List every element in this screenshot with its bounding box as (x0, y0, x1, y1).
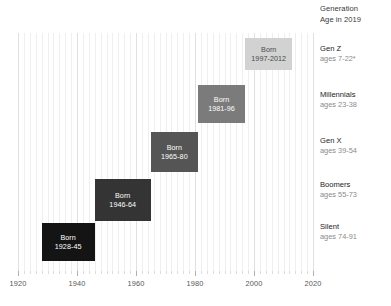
era-box-label-born: Born (214, 95, 229, 104)
axis-tick (95, 271, 96, 274)
era-box-label-born: Born (261, 45, 276, 54)
generation-row-millennials[interactable]: Millennialsages 23-38 (320, 90, 391, 110)
axis-tick (148, 271, 149, 274)
gridline-minor (230, 33, 231, 271)
x-axis-label-1980: 1980 (187, 279, 204, 288)
generation-row-boomers[interactable]: Boomersages 55-73 (320, 180, 391, 200)
x-axis-label-1940: 1940 (69, 279, 86, 288)
generation-name: Millennials (320, 90, 391, 100)
axis-tick (124, 271, 125, 274)
axis-tick (236, 271, 237, 274)
gridline-minor (236, 33, 237, 271)
gridline-minor (307, 33, 308, 271)
axis-tick (272, 271, 273, 274)
gridline-minor (112, 33, 113, 271)
axis-tick (266, 271, 267, 274)
axis-tick (207, 271, 208, 274)
axis-tick (307, 271, 308, 274)
x-axis-label-1960: 1960 (128, 279, 145, 288)
axis-tick (195, 271, 196, 276)
gridline-minor (130, 33, 131, 271)
generation-row-gen-x[interactable]: Gen Xages 39-54 (320, 136, 391, 156)
legend-header-line2: Age in 2019 (320, 15, 391, 26)
era-box-label-years: 1928-45 (55, 242, 82, 251)
axis-tick (289, 271, 290, 274)
axis-tick (36, 271, 37, 274)
generation-name: Gen X (320, 136, 391, 146)
generation-name: Boomers (320, 180, 391, 190)
axis-tick (166, 271, 167, 274)
x-axis-label-2020: 2020 (305, 279, 322, 288)
generation-row-gen-z[interactable]: Gen Zages 7-22* (320, 44, 391, 64)
axis-tick (154, 271, 155, 274)
generation-name: Silent (320, 222, 391, 232)
gridline-major (136, 33, 137, 271)
axis-tick (65, 271, 66, 274)
era-box-label-years: 1997-2012 (251, 54, 286, 63)
axis-tick (183, 271, 184, 274)
axis-tick (130, 271, 131, 274)
gridline-minor (213, 33, 214, 271)
axis-tick (225, 271, 226, 274)
axis-tick (242, 271, 243, 274)
axis-tick (77, 271, 78, 276)
axis-tick (160, 271, 161, 274)
axis-tick (177, 271, 178, 274)
axis-tick (284, 271, 285, 274)
axis-tick (89, 271, 90, 274)
gridline-minor (30, 33, 31, 271)
axis-tick (48, 271, 49, 274)
era-box-silent[interactable]: Born1928-45 (42, 223, 95, 261)
gridline-minor (295, 33, 296, 271)
axis-tick (142, 271, 143, 274)
gridline-minor (101, 33, 102, 271)
gridline-major (18, 33, 19, 271)
axis-tick (295, 271, 296, 274)
era-box-boomers[interactable]: Born1946-64 (95, 179, 151, 221)
axis-tick (101, 271, 102, 274)
axis-tick (30, 271, 31, 274)
gridline-minor (142, 33, 143, 271)
gridline-minor (95, 33, 96, 271)
generation-name: Gen Z (320, 44, 391, 54)
gridline-minor (118, 33, 119, 271)
axis-tick (59, 271, 60, 274)
era-box-gen-x[interactable]: Born1965-80 (151, 132, 198, 172)
axis-tick (136, 271, 137, 276)
gridline-minor (201, 33, 202, 271)
axis-tick (71, 271, 72, 274)
era-box-gen-z[interactable]: Born1997-2012 (245, 38, 292, 70)
gridline-minor (242, 33, 243, 271)
axis-tick (213, 271, 214, 274)
generation-ages: ages 74-91 (320, 232, 391, 242)
axis-tick (301, 271, 302, 274)
generation-row-silent[interactable]: Silentages 74-91 (320, 222, 391, 242)
axis-tick (53, 271, 54, 274)
axis-tick (201, 271, 202, 274)
gridline-minor (36, 33, 37, 271)
gridline-minor (107, 33, 108, 271)
generation-ages: ages 55-73 (320, 190, 391, 200)
axis-ticks (18, 271, 313, 277)
generation-ages: ages 39-54 (320, 146, 391, 156)
gridline-minor (225, 33, 226, 271)
axis-tick (254, 271, 255, 276)
axis-tick (278, 271, 279, 274)
gridline-minor (301, 33, 302, 271)
axis-tick (219, 271, 220, 274)
chart-root: Generation Age in 2019 Born1997-2012Born… (0, 0, 391, 306)
era-box-label-years: 1981-96 (208, 104, 235, 113)
era-box-millennials[interactable]: Born1981-96 (198, 85, 245, 123)
gridline-minor (124, 33, 125, 271)
axis-tick (24, 271, 25, 274)
gridline-minor (24, 33, 25, 271)
axis-tick (171, 271, 172, 274)
era-box-label-born: Born (60, 233, 75, 242)
era-box-label-years: 1946-64 (109, 200, 136, 209)
x-axis-labels: 192019401960198020002020 (0, 279, 391, 295)
x-axis-label-2000: 2000 (246, 279, 263, 288)
era-box-label-born: Born (115, 191, 130, 200)
era-box-label-years: 1965-80 (161, 152, 188, 161)
axis-tick (260, 271, 261, 274)
legend-header-line1: Generation (320, 4, 391, 15)
